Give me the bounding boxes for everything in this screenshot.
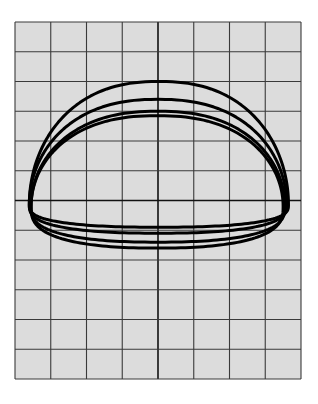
chart-canvas <box>0 0 318 404</box>
